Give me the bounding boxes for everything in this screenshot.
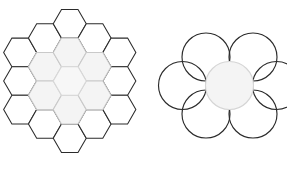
circle-cell (159, 62, 207, 110)
hexagon-grid-panel (4, 10, 136, 153)
figure-canvas (0, 0, 287, 171)
diagram-svg (0, 0, 287, 171)
circle-cluster-panel (159, 33, 288, 138)
circle-cell-center (206, 62, 254, 110)
